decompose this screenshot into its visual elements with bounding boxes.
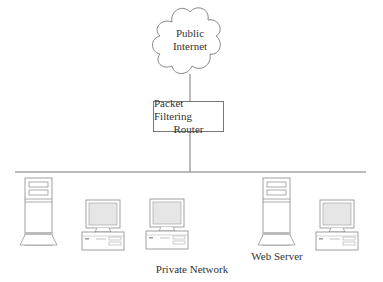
cloud-label: Public Internet [160,27,220,53]
cloud-label-line2: Internet [160,40,220,53]
workstation-icon [316,200,358,250]
web-server-tower-icon [258,178,295,245]
cloud-label-line1: Public [160,27,220,40]
server-tower-icon [20,178,57,245]
router-label-line1: Packet Filtering [154,97,223,123]
private-network-label: Private Network [152,263,232,276]
workstation-icon [82,200,124,250]
router-label-line2: Router [174,123,204,136]
workstation-icon [146,199,188,249]
router-box: Packet Filtering Router [153,101,224,132]
web-server-label: Web Server [247,250,307,263]
